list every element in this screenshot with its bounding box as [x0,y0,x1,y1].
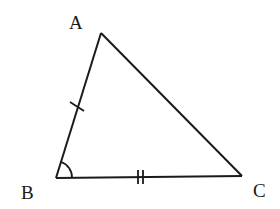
side-ab [56,33,101,178]
vertex-label-c: C [253,180,266,201]
side-bc [56,176,242,178]
side-ac [101,33,242,176]
vertex-label-a: A [69,12,83,33]
triangle-diagram: A B C [0,0,280,209]
angle-arc-b [61,162,72,178]
vertex-label-b: B [21,182,34,203]
